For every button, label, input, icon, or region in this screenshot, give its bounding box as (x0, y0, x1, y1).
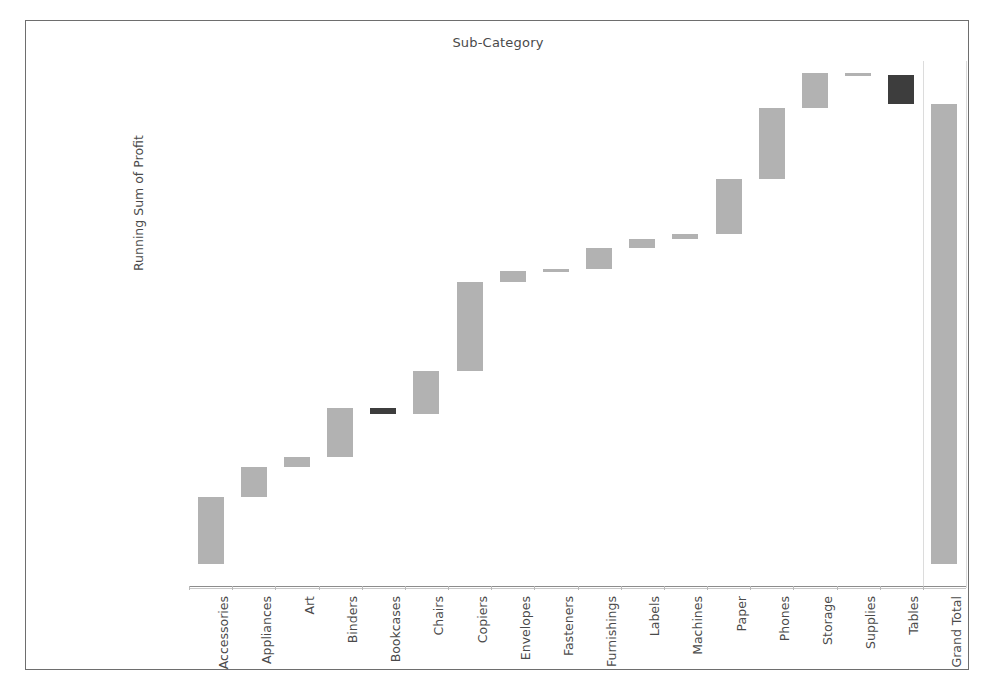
x-axis-tickmark (405, 586, 406, 590)
x-axis-tickmark (621, 586, 622, 590)
x-axis-tickmark (232, 586, 233, 590)
x-axis-tickmark (448, 586, 449, 590)
waterfall-bar[interactable] (845, 73, 871, 76)
y-axis-title: Running Sum of Profit (131, 251, 146, 271)
waterfall-bar[interactable] (672, 234, 698, 239)
waterfall-bar[interactable] (500, 271, 526, 282)
x-axis-tickmark (491, 586, 492, 590)
waterfall-bar[interactable] (198, 497, 224, 564)
waterfall-bar[interactable] (888, 75, 914, 103)
plot-area (189, 61, 966, 586)
x-axis-tick-label: Labels (647, 596, 662, 636)
x-axis-tickmark (793, 586, 794, 590)
x-axis-tick-label: Binders (345, 596, 360, 643)
x-axis-tick-label: Paper (734, 596, 749, 631)
x-axis-tickmark (275, 586, 276, 590)
waterfall-bar[interactable] (629, 239, 655, 248)
waterfall-bar[interactable] (413, 371, 439, 414)
chart-frame: Sub-Category Running Sum of Profit $0$50… (25, 20, 969, 670)
x-axis-tickmark (319, 586, 320, 590)
waterfall-bar[interactable] (759, 108, 785, 180)
x-axis-tick-label: Chairs (431, 596, 446, 635)
x-axis-tickmark (707, 586, 708, 590)
x-axis-tick-label: Fasteners (561, 596, 576, 656)
waterfall-bar[interactable] (370, 408, 396, 414)
waterfall-bar[interactable] (716, 179, 742, 234)
x-axis-tick-label: Supplies (863, 596, 878, 649)
waterfall-bar[interactable] (327, 408, 353, 457)
x-axis-tick-label: Phones (777, 596, 792, 641)
x-axis-tick-label: Machines (690, 596, 705, 655)
waterfall-bar[interactable] (457, 282, 483, 371)
grand-total-separator (966, 61, 967, 588)
x-axis-tickmark (664, 586, 665, 590)
x-axis-tickmark (362, 586, 363, 590)
x-axis-tick-label: Appliances (259, 596, 274, 664)
x-axis-tickmark (578, 586, 579, 590)
x-axis-tickmark (880, 586, 881, 590)
x-axis-tick-label: Envelopes (518, 596, 533, 660)
x-axis-tick-label: Accessories (216, 596, 231, 669)
x-axis-tickmark (534, 586, 535, 590)
x-axis-tickmark (923, 586, 924, 590)
chart-title: Sub-Category (26, 35, 970, 50)
x-axis-tick-label: Tables (906, 596, 921, 635)
x-axis-tickmark (837, 586, 838, 590)
x-axis-tick-label: Copiers (475, 596, 490, 643)
x-axis-tick-label: Art (302, 596, 317, 615)
x-axis-tickmark (750, 586, 751, 590)
grand-total-separator (923, 61, 924, 588)
x-axis-tickmark (189, 586, 190, 590)
waterfall-bar[interactable] (543, 269, 569, 272)
waterfall-bar[interactable] (586, 248, 612, 269)
waterfall-bar[interactable] (284, 457, 310, 467)
waterfall-bar[interactable] (802, 73, 828, 107)
waterfall-bar[interactable] (241, 467, 267, 496)
x-axis-tick-label: Furnishings (604, 596, 619, 667)
x-axis-tick-label: Storage (820, 596, 835, 645)
x-axis-tick-label: Bookcases (388, 596, 403, 662)
x-axis-tick-label: Grand Total (949, 596, 964, 668)
waterfall-bar[interactable] (931, 104, 957, 564)
